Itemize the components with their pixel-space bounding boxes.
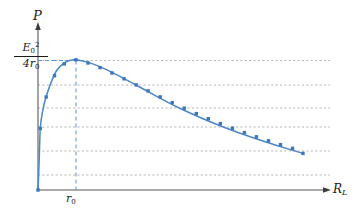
data-point — [159, 95, 162, 98]
numerator-superscript: 2 — [35, 41, 39, 49]
numerator-base: E — [23, 41, 31, 54]
y-axis-arrow-icon — [35, 22, 41, 30]
data-point — [53, 74, 56, 77]
y-tick-numerator: E02 — [8, 42, 54, 56]
y-axis-label: P — [33, 8, 42, 23]
x-tick-label-r0: r0 — [66, 192, 76, 206]
data-point — [243, 131, 246, 134]
data-point — [195, 112, 198, 115]
data-point — [291, 147, 294, 150]
data-point — [36, 188, 39, 191]
x-axis-arrow-icon — [323, 187, 331, 193]
data-point — [45, 95, 48, 98]
power-transfer-chart — [0, 0, 354, 217]
denominator-coefficient: 4 — [23, 57, 30, 70]
peak-guide-lines — [38, 61, 76, 191]
data-point — [171, 101, 174, 104]
data-point — [98, 66, 101, 69]
data-point — [146, 89, 149, 92]
data-point-markers — [36, 58, 304, 192]
data-point — [122, 77, 125, 80]
data-point — [110, 71, 113, 74]
x-axis-label-base: R — [333, 182, 342, 196]
data-point — [39, 127, 42, 130]
data-point — [279, 143, 282, 146]
data-point — [74, 58, 77, 61]
x-tick-subscript: 0 — [71, 198, 75, 206]
data-point — [231, 127, 234, 130]
gridlines-horizontal — [38, 61, 330, 176]
denominator-subscript: 0 — [35, 63, 39, 71]
x-axis — [38, 187, 331, 193]
data-point — [255, 135, 258, 138]
data-point — [267, 139, 270, 142]
data-point — [183, 107, 186, 110]
data-point — [134, 83, 137, 86]
y-tick-denominator: 4r0 — [8, 57, 54, 71]
data-point — [301, 152, 304, 155]
data-point — [86, 61, 89, 64]
data-point — [219, 122, 222, 125]
data-point — [207, 117, 210, 120]
data-point — [63, 62, 66, 65]
y-tick-label-peak-power: E02 4r0 — [8, 42, 54, 71]
x-axis-label-subscript: L — [342, 188, 347, 197]
power-curve — [38, 60, 303, 190]
x-axis-label: RL — [333, 182, 347, 197]
